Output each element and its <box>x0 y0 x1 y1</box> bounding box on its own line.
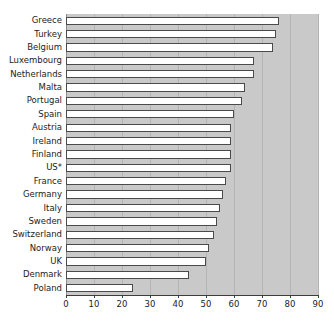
bar-italy <box>66 204 220 212</box>
bar-row <box>66 268 318 281</box>
y-axis-label: Ireland <box>0 137 62 146</box>
x-tick-label: 90 <box>313 300 324 309</box>
gridline-90 <box>318 14 319 295</box>
bar-row <box>66 282 318 295</box>
bar-ireland <box>66 137 231 145</box>
x-tick-60 <box>234 295 235 298</box>
bar-row <box>66 54 318 67</box>
bar-luxembourg <box>66 57 254 65</box>
bar-row <box>66 27 318 40</box>
x-tick-40 <box>178 295 179 298</box>
y-axis-label: Spain <box>0 110 62 119</box>
x-tick-30 <box>150 295 151 298</box>
bar-malta <box>66 83 245 91</box>
x-tick-label: 60 <box>229 300 240 309</box>
bar-poland <box>66 284 133 292</box>
bar-row <box>66 81 318 94</box>
bar-norway <box>66 244 209 252</box>
y-axis-label: Italy <box>0 204 62 213</box>
y-axis-label: France <box>0 177 62 186</box>
bar-row <box>66 175 318 188</box>
bar-turkey <box>66 30 276 38</box>
bar-chart: GreeceTurkeyBelgiumLuxembourgNetherlands… <box>0 0 334 329</box>
x-tick-20 <box>122 295 123 298</box>
bar-row <box>66 94 318 107</box>
bar-finland <box>66 150 231 158</box>
y-axis-label: Sweden <box>0 217 62 226</box>
bar-greece <box>66 17 279 25</box>
x-tick-50 <box>206 295 207 298</box>
bar-row <box>66 121 318 134</box>
y-axis-label: Luxembourg <box>0 56 62 65</box>
bar-austria <box>66 124 231 132</box>
bar-row <box>66 148 318 161</box>
x-tick-10 <box>94 295 95 298</box>
y-axis-label: UK <box>0 257 62 266</box>
y-axis-label: Germany <box>0 190 62 199</box>
bar-row <box>66 41 318 54</box>
bar-row <box>66 255 318 268</box>
y-axis-label: Switzerland <box>0 230 62 239</box>
y-axis-label: Poland <box>0 284 62 293</box>
y-axis-label: US* <box>0 163 62 172</box>
bar-row <box>66 161 318 174</box>
x-tick-label: 80 <box>285 300 296 309</box>
y-axis-category-labels: GreeceTurkeyBelgiumLuxembourgNetherlands… <box>0 14 62 295</box>
x-tick-label: 70 <box>257 300 268 309</box>
x-tick-label: 30 <box>145 300 156 309</box>
bar-row <box>66 241 318 254</box>
bar-row <box>66 134 318 147</box>
x-tick-label: 20 <box>117 300 128 309</box>
x-axis: 0102030405060708090 <box>66 295 318 296</box>
x-tick-70 <box>262 295 263 298</box>
bar-us <box>66 164 231 172</box>
bar-france <box>66 177 226 185</box>
y-axis-label: Turkey <box>0 30 62 39</box>
bar-row <box>66 201 318 214</box>
x-tick-0 <box>66 295 67 298</box>
bar-netherlands <box>66 70 254 78</box>
x-tick-label: 40 <box>173 300 184 309</box>
x-tick-80 <box>290 295 291 298</box>
bar-row <box>66 188 318 201</box>
x-tick-label: 0 <box>63 300 68 309</box>
bar-portugal <box>66 97 242 105</box>
y-axis-label: Finland <box>0 150 62 159</box>
bar-spain <box>66 110 234 118</box>
bar-row <box>66 14 318 27</box>
x-tick-label: 50 <box>201 300 212 309</box>
bar-germany <box>66 190 223 198</box>
y-axis-label: Norway <box>0 244 62 253</box>
bar-uk <box>66 257 206 265</box>
bar-sweden <box>66 217 217 225</box>
x-tick-90 <box>318 295 319 298</box>
y-axis-label: Belgium <box>0 43 62 52</box>
y-axis-label: Netherlands <box>0 70 62 79</box>
bar-row <box>66 108 318 121</box>
x-tick-label: 10 <box>89 300 100 309</box>
y-axis-label: Greece <box>0 16 62 25</box>
bar-row <box>66 228 318 241</box>
bar-series <box>66 14 318 295</box>
bar-row <box>66 215 318 228</box>
y-axis-label: Portugal <box>0 96 62 105</box>
y-axis-label: Denmark <box>0 270 62 279</box>
y-axis-label: Malta <box>0 83 62 92</box>
bar-belgium <box>66 43 273 51</box>
bar-switzerland <box>66 231 214 239</box>
bar-row <box>66 68 318 81</box>
bar-denmark <box>66 271 189 279</box>
plot-area <box>66 14 318 295</box>
y-axis-label: Austria <box>0 123 62 132</box>
